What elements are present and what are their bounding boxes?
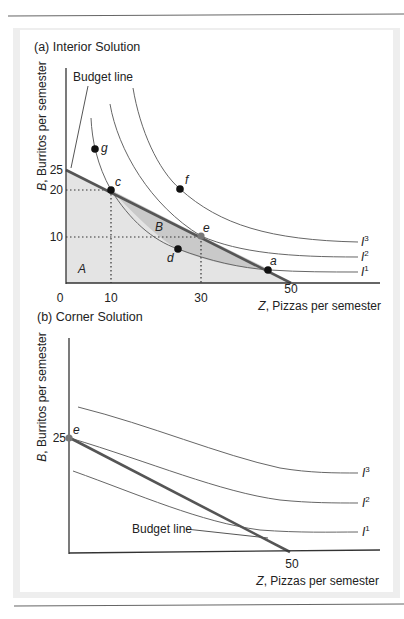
x-axis-title-b: Z, Pizzas per semester <box>255 574 379 588</box>
point-e-b-label: e <box>73 423 80 437</box>
point-g-label: g <box>101 141 108 155</box>
point-c <box>107 186 115 194</box>
point-c-label: c <box>115 175 121 189</box>
y-axis-title-b: B, Burritos per semester <box>35 332 49 461</box>
x-tick-30: 30 <box>194 291 208 305</box>
panel-b-title: (b) Corner Solution <box>37 310 143 324</box>
x-axis-title-a: Z, Pizzas per semester <box>257 299 381 313</box>
figure: (a) Interior Solution Budget line 0 10 3… <box>0 0 404 619</box>
point-e-label: e <box>203 221 210 235</box>
x-tick-50: 50 <box>284 282 298 296</box>
point-d-label: d <box>167 251 174 265</box>
y-tick-20: 20 <box>50 183 64 197</box>
panel-a-title: (a) Interior Solution <box>34 40 140 54</box>
y-tick-10: 10 <box>50 230 64 244</box>
y-tick-25-b: 25 <box>53 431 67 445</box>
region-a-label: A <box>77 262 86 276</box>
y-axis-title-a: B, Burritos per semester <box>35 61 49 190</box>
region-b-label: B <box>155 220 163 234</box>
point-a-label: a <box>270 254 277 268</box>
budget-line-label-b: Budget line <box>132 522 192 536</box>
budget-line-label-a: Budget line <box>73 70 133 84</box>
point-g <box>91 145 99 153</box>
point-d <box>174 245 182 253</box>
x-tick-50-b: 50 <box>285 557 299 571</box>
y-tick-25: 25 <box>50 163 64 177</box>
point-f <box>176 185 184 193</box>
point-e-b <box>65 434 72 441</box>
x-tick-0: 0 <box>57 291 64 305</box>
x-tick-10: 10 <box>104 291 118 305</box>
